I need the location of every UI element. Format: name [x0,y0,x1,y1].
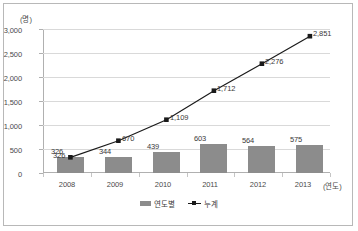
x-axis-tick [187,173,188,177]
chart-screenshot: (명) 3,000 2,500 2,000 1,500 1,000 500 0 [0,0,358,231]
x-tick-label-2009: 2009 [95,180,135,189]
line-value-2012: 2,276 [265,57,283,66]
x-axis-tick [234,173,235,177]
x-tick-label-2010: 2010 [143,180,183,189]
bar-value-2011: 603 [180,134,220,143]
y-axis-unit-label: (명) [20,13,32,24]
line-value-2011: 1,712 [217,84,235,93]
line-value-2010: 1,109 [170,113,188,122]
x-tick-label-2013: 2013 [283,180,323,189]
y-tick-label-1000: 1,000 [0,122,22,131]
legend-label-cumulative: 누계 [204,198,218,209]
bar-value-2013: 575 [276,135,316,144]
x-tick-label-2011: 2011 [190,180,230,189]
x-tick-label-2012: 2012 [238,180,278,189]
x-axis-title: (연도) [323,180,342,191]
legend-label-yearly: 연도별 [154,198,175,209]
chart-legend: 연도별 누계 [0,198,358,209]
x-axis-tick [91,173,92,177]
line-value-2008: 326 [53,151,65,160]
line-value-2009: 670 [122,134,134,143]
line-swatch-icon [188,201,201,207]
x-axis-tick [282,173,283,177]
y-tick-label-3000: 3,000 [0,26,22,35]
line-value-2013: 2,851 [313,29,331,38]
bar-value-2009: 344 [85,147,125,156]
x-tick-label-2008: 2008 [47,180,87,189]
y-tick-label-500: 500 [0,146,22,155]
x-axis-tick [139,173,140,177]
bar-value-2012: 564 [228,136,268,145]
y-tick-label-2000: 2,000 [0,74,22,83]
bar-value-2010: 439 [133,142,173,151]
x-axis-tick [43,173,44,177]
legend-item-cumulative[interactable]: 누계 [188,198,218,209]
y-tick-label-1500: 1,500 [0,98,22,107]
y-tick-label-0: 0 [0,170,22,179]
x-axis-tick [330,173,331,177]
bar-swatch-icon [140,201,151,206]
legend-item-yearly[interactable]: 연도별 [140,198,175,209]
y-tick-label-2500: 2,500 [0,50,22,59]
